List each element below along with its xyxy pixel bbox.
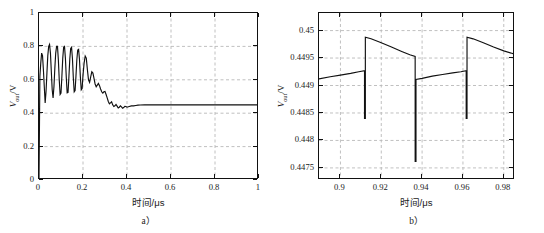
x-tick-label: 0.94 (414, 182, 429, 192)
x-tick (258, 174, 259, 178)
x-tick-label: 0.98 (495, 182, 510, 192)
y-tick-right (509, 57, 513, 58)
x-tick (82, 174, 83, 178)
y-tick (39, 79, 43, 80)
y-tick-right (253, 12, 257, 13)
y-tick-right (509, 139, 513, 140)
y-axis-title-a-subscript: out (13, 93, 20, 101)
y-axis-title-b-unit: /V (276, 84, 286, 93)
y-axis-title-b: Vout/V (276, 84, 288, 107)
plot-frame-a (38, 12, 258, 179)
gridlines-a (39, 13, 258, 179)
y-tick (39, 179, 43, 180)
x-tick-label: 0.92 (373, 182, 388, 192)
x-tick (170, 174, 171, 178)
y-axis-title-a-symbol: V (8, 101, 18, 107)
plot-frame-b (318, 12, 514, 179)
x-tick-label: 0 (36, 182, 40, 192)
y-tick-right (509, 112, 513, 113)
y-tick (319, 167, 323, 168)
y-tick (39, 45, 43, 46)
x-tick (462, 174, 463, 178)
panel-caption-a: a） (141, 213, 154, 227)
x-tick-label: 0.96 (454, 182, 469, 192)
y-tick (39, 146, 43, 147)
panel-caption-b: b） (409, 213, 423, 227)
x-tick-top (339, 13, 340, 17)
y-tick (319, 139, 323, 140)
y-tick (319, 112, 323, 113)
x-tick (380, 174, 381, 178)
x-tick (214, 174, 215, 178)
x-axis-title-b: 时间/μs (400, 195, 433, 209)
y-tick-right (509, 30, 513, 31)
x-tick (421, 174, 422, 178)
y-tick-right (253, 45, 257, 46)
x-tick-top (38, 13, 39, 17)
x-tick-top (380, 13, 381, 17)
x-tick-label: 0.2 (77, 182, 88, 192)
y-axis-title-a-unit: /V (8, 84, 18, 93)
x-tick-label: 0.9 (334, 182, 345, 192)
x-tick (126, 174, 127, 178)
x-tick-top (82, 13, 83, 17)
x-tick-top (503, 13, 504, 17)
chart-panel-a: 00.20.40.60.81 00.20.40.60.81 时间/μs Vout… (0, 0, 272, 233)
chart-b-svg (319, 13, 514, 179)
x-tick (503, 174, 504, 178)
x-tick-top (214, 13, 215, 17)
figure-container: 00.20.40.60.81 00.20.40.60.81 时间/μs Vout… (0, 0, 544, 233)
y-tick (319, 85, 323, 86)
y-tick-right (253, 112, 257, 113)
y-tick-right (509, 167, 513, 168)
x-tick-label: 0.4 (121, 182, 132, 192)
x-tick-top (462, 13, 463, 17)
x-tick (339, 174, 340, 178)
x-tick (38, 174, 39, 178)
y-axis-title-b-symbol: V (276, 101, 286, 107)
y-axis-title-b-subscript: out (281, 93, 288, 101)
y-tick-right (253, 79, 257, 80)
chart-panel-b: 0.90.920.940.960.98 0.44750.4480.44850.4… (272, 0, 544, 233)
y-tick-right (253, 179, 257, 180)
y-axis-title-a: Vout/V (8, 84, 20, 107)
x-axis-title-a: 时间/μs (132, 195, 165, 209)
x-tick-label: 0.8 (209, 182, 220, 192)
y-tick-right (509, 85, 513, 86)
chart-a-svg (39, 13, 258, 179)
transient-response-curve (39, 44, 258, 179)
x-tick-top (258, 13, 259, 17)
x-tick-label: 1 (256, 182, 260, 192)
steady-state-ripple-curve (319, 37, 514, 161)
y-tick (319, 57, 323, 58)
y-tick-right (253, 146, 257, 147)
y-tick (39, 12, 43, 13)
y-tick (319, 30, 323, 31)
x-tick-top (421, 13, 422, 17)
x-tick-top (170, 13, 171, 17)
y-tick (39, 112, 43, 113)
x-tick-top (126, 13, 127, 17)
x-tick-label: 0.6 (165, 182, 176, 192)
